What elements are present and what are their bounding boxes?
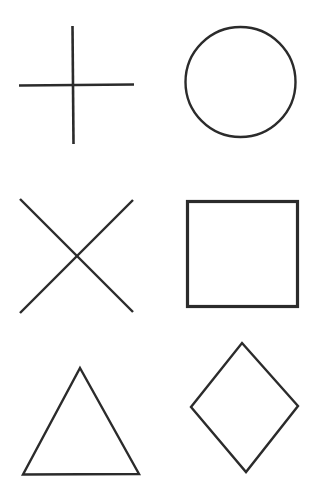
plus-horizontal-stroke — [19, 85, 134, 86]
shapes-svg — [0, 0, 319, 499]
canvas-background — [0, 0, 319, 499]
shapes-canvas — [0, 0, 319, 499]
plus-vertical-stroke — [73, 26, 74, 144]
